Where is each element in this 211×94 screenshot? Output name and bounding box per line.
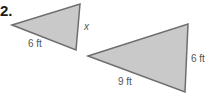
large-bottom-label: 9 ft xyxy=(118,76,132,87)
small-right-label: x xyxy=(84,21,89,32)
large-right-label: 6 ft xyxy=(191,53,205,64)
large-triangle xyxy=(88,24,188,92)
small-bottom-label: 6 ft xyxy=(28,38,42,49)
small-triangle xyxy=(12,4,80,50)
